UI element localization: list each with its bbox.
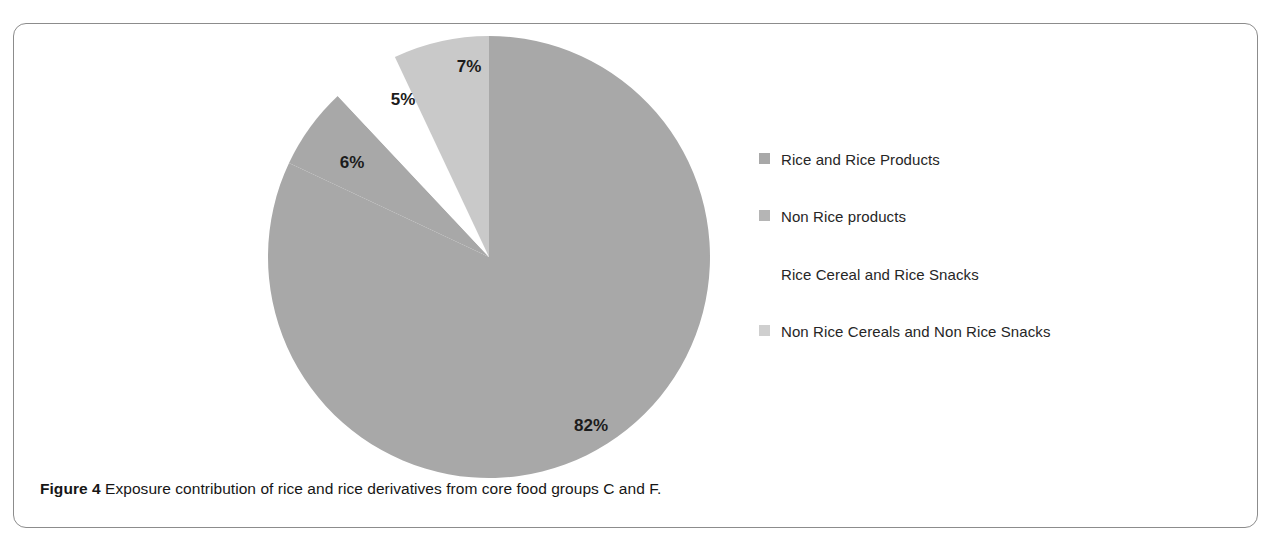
pie-svg: 82% 6% 5% 7% [259,27,719,487]
chart-legend: Rice and Rice Products Non Rice products… [759,149,1089,342]
legend-item-non-rice-cereals-and-non-rice-snacks[interactable]: Non Rice Cereals and Non Rice Snacks [759,321,1089,342]
figure-frame: 82% 6% 5% 7% Rice and Rice Products Non … [13,23,1258,528]
pie-label-rice-and-rice-products: 82% [574,416,608,435]
pie-label-non-rice-products: 6% [340,153,365,172]
figure-caption: Figure 4 Exposure contribution of rice a… [40,479,1230,499]
legend-item-rice-and-rice-products[interactable]: Rice and Rice Products [759,149,1089,170]
legend-item-non-rice-products[interactable]: Non Rice products [759,206,1089,227]
legend-swatch-icon [759,325,770,336]
legend-swatch-icon [759,210,770,221]
figure-caption-text: Exposure contribution of rice and rice d… [105,480,661,497]
legend-item-label: Rice Cereal and Rice Snacks [781,264,1089,285]
legend-item-label: Rice and Rice Products [781,149,1089,170]
legend-item-rice-cereal-and-rice-snacks[interactable]: Rice Cereal and Rice Snacks [759,264,1089,285]
legend-swatch-icon [759,153,770,164]
pie-chart: 82% 6% 5% 7% Rice and Rice Products Non … [14,24,1259,464]
legend-item-label: Non Rice products [781,206,1089,227]
pie-label-rice-cereal-and-rice-snacks: 5% [391,90,416,109]
pie-slices [268,36,710,478]
legend-swatch-icon [759,268,770,279]
pie-label-non-rice-cereals-and-non-rice-snacks: 7% [457,57,482,76]
pie-graphic: 82% 6% 5% 7% [259,27,719,487]
figure-caption-prefix: Figure 4 [40,480,101,497]
legend-item-label: Non Rice Cereals and Non Rice Snacks [781,321,1089,342]
